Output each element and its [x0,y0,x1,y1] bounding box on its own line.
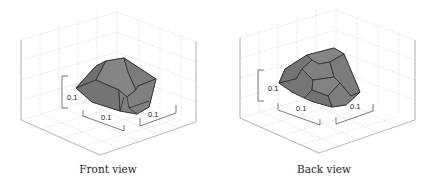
polyhedron-front [76,58,156,114]
scale-label-x: 0.1 [101,113,111,122]
scale-label-x: 0.1 [296,104,306,113]
back-view-panel: 0.1 0.1 0.1 Back view [216,0,432,187]
front-view-plot: 0.1 0.1 0.1 [0,0,216,187]
back-view-plot: 0.1 0.1 0.1 [216,0,432,187]
scale-label-y: 0.1 [350,102,360,111]
scale-label-z: 0.1 [268,84,278,93]
front-view-panel: 0.1 0.1 0.1 Front view [0,0,216,187]
scale-label-y: 0.1 [148,110,158,119]
scale-label-z: 0.1 [67,93,77,102]
front-view-caption: Front view [0,163,216,175]
back-view-caption: Back view [216,163,432,175]
polyhedron-back [279,48,360,107]
